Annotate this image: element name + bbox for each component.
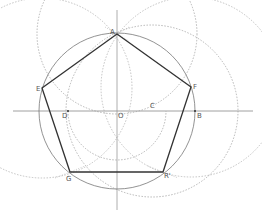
point-d [67,110,69,112]
label-r: R' [164,173,171,180]
pentagon [42,34,191,172]
label-d: D [62,113,67,120]
label-o: O [118,113,124,120]
pentagon-construction-diagram [0,0,262,219]
label-b: B [197,113,202,120]
arc-centered-e [0,0,132,178]
label-a: A [110,29,115,36]
label-f: F [193,84,197,91]
label-e: E [36,86,40,93]
label-g: G [66,176,71,183]
point-b [194,110,196,112]
label-c: C [150,103,155,110]
arc-centered-f [101,0,262,177]
